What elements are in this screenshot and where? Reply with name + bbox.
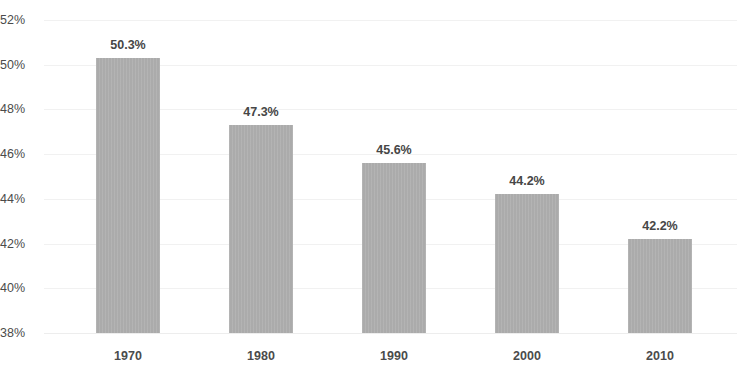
y-axis-tick-label: 52%: [0, 13, 38, 27]
bar-value-label: 47.3%: [209, 105, 313, 119]
y-axis-tick-label: 40%: [0, 281, 38, 295]
y-axis-tick-label: 44%: [0, 192, 38, 206]
plot-area: 38%40%42%44%46%48%50%52%50.3%197047.3%19…: [0, 0, 737, 380]
gridline: [44, 333, 737, 334]
bar[interactable]: [495, 194, 559, 333]
y-axis-tick-label: 38%: [0, 326, 38, 340]
x-axis-tick-label: 1990: [337, 349, 451, 364]
bar-value-label: 42.2%: [608, 219, 712, 233]
y-axis-tick-label: 46%: [0, 147, 38, 161]
bar-value-label: 45.6%: [342, 143, 446, 157]
bar[interactable]: [229, 125, 293, 333]
x-axis-tick-label: 2010: [603, 349, 717, 364]
gridline: [44, 20, 737, 21]
bar-value-label: 44.2%: [475, 174, 579, 188]
bar[interactable]: [96, 58, 160, 333]
bar[interactable]: [628, 239, 692, 333]
y-axis-tick-label: 50%: [0, 58, 38, 72]
y-axis-tick-label: 42%: [0, 237, 38, 251]
bar-chart: 38%40%42%44%46%48%50%52%50.3%197047.3%19…: [0, 0, 737, 380]
bar-value-label: 50.3%: [76, 38, 180, 52]
x-axis-tick-label: 1970: [71, 349, 185, 364]
y-axis-tick-label: 48%: [0, 102, 38, 116]
x-axis-tick-label: 2000: [470, 349, 584, 364]
x-axis-tick-label: 1980: [204, 349, 318, 364]
bar[interactable]: [362, 163, 426, 333]
